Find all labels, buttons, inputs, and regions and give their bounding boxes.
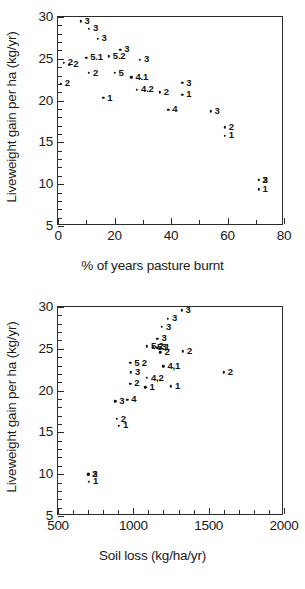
x-axis-tick — [103, 510, 104, 514]
x-axis-tick-label: 80 — [277, 229, 291, 243]
data-point-label: 5 — [119, 68, 124, 78]
data-point-label: 4.2 — [141, 84, 154, 94]
y-axis-tick-label: 25 — [39, 342, 53, 356]
data-point — [223, 135, 225, 137]
data-point-label: 1 — [186, 89, 191, 99]
y-axis-tick — [58, 159, 62, 160]
data-point — [114, 400, 116, 402]
data-point — [88, 28, 90, 30]
data-point-label: 1 — [149, 382, 154, 392]
y-axis-tick — [58, 466, 62, 467]
data-point — [136, 89, 138, 91]
y-axis-tick — [58, 176, 62, 177]
y-axis-title-bottom: Liveweight gain per ha (kg/yr) — [4, 292, 22, 522]
y-axis-tick — [58, 499, 62, 500]
data-point-label: 4.1 — [135, 72, 148, 82]
data-point-label: 1 — [93, 476, 98, 486]
data-point — [161, 326, 163, 328]
x-axis-tick — [86, 220, 87, 224]
y-axis-tick — [58, 432, 64, 433]
data-point — [257, 179, 259, 181]
data-point-label: 4 — [172, 105, 177, 115]
data-point — [162, 365, 164, 367]
x-axis-tick — [269, 510, 270, 514]
x-axis-tick-label: 20 — [107, 229, 121, 243]
data-point — [62, 62, 64, 64]
x-axis-tick-label: 1500 — [194, 519, 223, 533]
data-point — [257, 188, 259, 190]
y-axis-tick — [58, 17, 64, 18]
x-axis-tick — [284, 508, 285, 514]
y-axis-tick — [58, 407, 62, 408]
y-axis-tick — [58, 184, 64, 185]
data-point-label: 1 — [123, 420, 128, 430]
data-point — [79, 20, 81, 22]
y-axis-tick — [58, 307, 64, 308]
data-point-label: 1 — [175, 381, 180, 391]
data-point — [96, 38, 98, 40]
x-axis-tick — [58, 508, 59, 514]
y-axis-tick — [58, 483, 62, 484]
x-axis-tick-label: 0 — [54, 229, 61, 243]
y-axis-tick — [58, 193, 62, 194]
y-axis-tick-label: 10 — [39, 177, 53, 191]
y-axis-tick-label: 5 — [46, 219, 53, 233]
y-axis-title-top: Liveweight gain per ha (kg/yr) — [4, 2, 22, 232]
y-axis-tick-label: 25 — [39, 52, 53, 66]
data-point — [223, 371, 225, 373]
x-axis-title-bottom: Soil loss (kg/ha/yr) — [0, 548, 305, 563]
x-axis-tick — [284, 218, 285, 224]
x-axis-tick — [209, 508, 210, 514]
y-axis-tick — [58, 366, 62, 367]
y-axis-tick — [58, 134, 62, 135]
data-point — [158, 91, 160, 93]
y-axis-tick — [58, 201, 62, 202]
data-point-label: 2 — [65, 79, 70, 89]
scatter-plot-figure: Liveweight gain per ha (kg/yr) 510152025… — [0, 0, 305, 589]
y-axis-tick-label: 10 — [39, 467, 53, 481]
data-point-label: 3 — [172, 313, 177, 323]
data-point-label: 3 — [102, 33, 107, 43]
data-point-label: 2 — [73, 59, 78, 69]
data-point-label: 3 — [135, 367, 140, 377]
data-point — [88, 481, 90, 483]
y-axis-tick — [58, 474, 64, 475]
y-axis-tick-label: 20 — [39, 384, 53, 398]
x-axis-tick — [179, 510, 180, 514]
x-axis-tick — [239, 510, 240, 514]
data-point-label: 3 — [93, 23, 98, 33]
y-axis-tick-label: 30 — [39, 10, 53, 24]
data-point-label: 2 — [93, 68, 98, 78]
plot-area-top: 5101520253002040608033335.15.2322254.132… — [57, 16, 283, 225]
data-point — [144, 386, 146, 388]
y-axis-tick — [58, 391, 64, 392]
x-axis-tick — [194, 510, 195, 514]
y-axis-tick-label: 30 — [39, 300, 53, 314]
y-axis-tick — [58, 324, 62, 325]
x-axis-title-top: % of years pasture burnt — [0, 258, 305, 273]
data-point — [167, 318, 169, 320]
x-axis-tick — [133, 508, 134, 514]
data-point — [130, 371, 132, 373]
data-point-label: 5.1 — [90, 53, 103, 63]
x-axis-tick-label: 500 — [47, 519, 69, 533]
y-axis-tick — [58, 382, 62, 383]
y-axis-tick — [58, 226, 64, 227]
data-point — [181, 94, 183, 96]
data-point-label: 1 — [107, 93, 112, 103]
y-axis-tick — [58, 25, 62, 26]
y-axis-tick — [58, 142, 64, 143]
x-axis-tick — [228, 218, 229, 224]
y-axis-tick-label: 15 — [39, 426, 53, 440]
x-axis-tick — [224, 510, 225, 514]
x-axis-tick-label: 1000 — [119, 519, 148, 533]
data-point — [223, 126, 225, 128]
chart-panel-bottom: Liveweight gain per ha (kg/yr) 510152025… — [0, 290, 305, 589]
y-axis-tick — [58, 109, 62, 110]
x-axis-tick — [148, 510, 149, 514]
x-axis-tick — [199, 220, 200, 224]
data-point-label: 3 — [85, 16, 90, 26]
data-point-label: 3 — [119, 396, 124, 406]
data-point — [209, 110, 211, 112]
y-axis-tick — [58, 117, 62, 118]
